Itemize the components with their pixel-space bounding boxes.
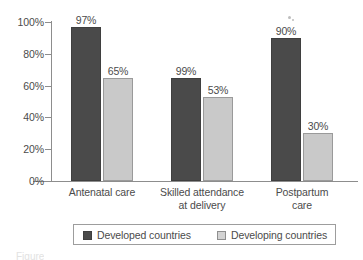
y-axis-tick-label: 60% xyxy=(23,80,44,92)
bar-value-label: 30% xyxy=(308,120,329,132)
legend-swatch-developed-icon xyxy=(83,231,92,240)
legend-label-developed: Developed countries xyxy=(97,229,191,241)
y-axis-tick-label: 20% xyxy=(23,143,44,155)
legend-label-developing: Developing countries xyxy=(231,229,327,241)
category-label-line: Postpartum xyxy=(242,186,362,199)
figure-bar-chart: 0%20%40%60%80%100% 97%65%99%53%90%30% An… xyxy=(0,0,363,260)
chart-legend: Developed countries Developing countries xyxy=(73,224,336,245)
bar-value-label: 90% xyxy=(276,25,297,37)
y-axis-tick-label: 100% xyxy=(18,16,44,28)
bar-developing: 30% xyxy=(303,133,333,181)
y-axis-tick-label: 40% xyxy=(23,111,44,123)
bar-value-label: 65% xyxy=(108,65,129,77)
x-axis-category-label: Postpartumcare xyxy=(242,186,362,211)
y-axis-tick-mark xyxy=(45,86,52,87)
y-axis-tick-label: 80% xyxy=(23,48,44,60)
y-axis-tick-mark xyxy=(45,22,52,23)
y-axis-tick-mark xyxy=(45,149,52,150)
figure-caption: Figure xyxy=(16,251,44,260)
bar-developing: 65% xyxy=(103,78,133,181)
scan-speck xyxy=(288,16,291,19)
bar-developing: 53% xyxy=(203,97,233,181)
x-axis-line xyxy=(33,181,358,182)
bar-developed: 97% xyxy=(71,27,101,181)
scan-speck xyxy=(292,19,294,21)
bar-value-label: 99% xyxy=(176,65,197,77)
plot-area: 97%65%99%53%90%30% xyxy=(52,22,352,181)
y-axis-tick-mark xyxy=(45,54,52,55)
legend-swatch-developing-icon xyxy=(217,231,226,240)
bar-developed: 90% xyxy=(271,38,301,181)
legend-entry-developed: Developed countries xyxy=(83,228,191,242)
y-axis-tick-mark xyxy=(45,181,52,182)
legend-entry-developing: Developing countries xyxy=(217,228,327,242)
y-axis-tick-mark xyxy=(45,117,52,118)
bar-value-label: 53% xyxy=(208,84,229,96)
category-label-line: care xyxy=(242,199,362,212)
bar-value-label: 97% xyxy=(76,14,97,26)
bar-developed: 99% xyxy=(171,78,201,181)
